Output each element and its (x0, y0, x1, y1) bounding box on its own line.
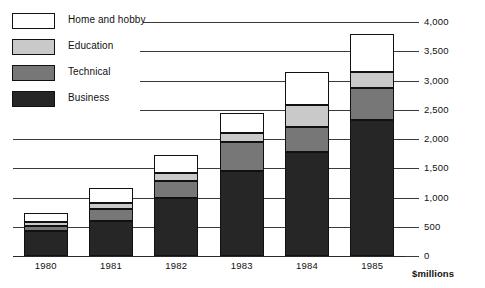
bar-segment-1985-education (350, 72, 394, 88)
y-axis-unit-label: $millions (412, 268, 454, 279)
bar-segment-1985-home (350, 34, 394, 72)
y-axis-tick-1000 (405, 198, 419, 199)
legend-label-technical: Technical (68, 66, 111, 77)
stacked-bar-chart: 05001,0001,5002,0002,5003,0003,5004,000 … (0, 0, 485, 288)
bar-segment-1983-home (220, 113, 264, 133)
bar-segment-1984-home (285, 72, 329, 105)
x-axis-label-1981: 1981 (86, 260, 136, 271)
bar-segment-1982-home (154, 155, 198, 173)
bar-segment-1983-business (220, 171, 264, 256)
legend-swatch-home-and-hobby (12, 13, 55, 29)
y-axis-label-3500: 3,500 (424, 45, 449, 56)
gridline-2000 (13, 139, 405, 140)
y-axis-label-1000: 1,000 (424, 192, 449, 203)
x-axis-label-1980: 1980 (21, 260, 71, 271)
y-axis-label-3000: 3,000 (424, 75, 449, 86)
legend-swatch-technical (12, 65, 55, 81)
gridline-1000 (13, 198, 405, 199)
bar-1981 (89, 188, 133, 256)
y-axis-tick-0 (405, 256, 419, 257)
bar-segment-1984-technical (285, 127, 329, 152)
bar-segment-1985-business (350, 120, 394, 256)
legend-label-home-and-hobby: Home and hobby (68, 14, 146, 25)
bar-1984 (285, 72, 329, 256)
y-axis-tick-1500 (405, 168, 419, 169)
bar-segment-1983-education (220, 133, 264, 142)
legend-swatch-education (12, 39, 55, 55)
bar-1982 (154, 155, 198, 256)
bar-segment-1983-technical (220, 142, 264, 171)
y-axis-tick-500 (405, 227, 419, 228)
bar-segment-1981-technical (89, 209, 133, 221)
bar-segment-1984-business (285, 152, 329, 256)
x-axis-label-1984: 1984 (282, 260, 332, 271)
x-axis-label-1982: 1982 (151, 260, 201, 271)
x-axis-line (13, 256, 405, 257)
y-axis-tick-3000 (405, 81, 419, 82)
y-axis-label-0: 0 (424, 250, 429, 261)
y-axis-label-2000: 2,000 (424, 133, 449, 144)
legend-swatch-business (12, 91, 55, 107)
bar-segment-1982-technical (154, 181, 198, 198)
y-axis-label-2500: 2,500 (424, 104, 449, 115)
bar-segment-1980-technical (24, 226, 68, 232)
y-axis-label-1500: 1,500 (424, 162, 449, 173)
bar-segment-1980-education (24, 222, 68, 226)
bar-1983 (220, 113, 264, 256)
bar-segment-1980-business (24, 231, 68, 256)
y-axis-tick-3500 (405, 51, 419, 52)
bar-segment-1985-technical (350, 88, 394, 120)
x-axis-label-1985: 1985 (347, 260, 397, 271)
y-axis-tick-2500 (405, 110, 419, 111)
bar-segment-1981-home (89, 188, 133, 203)
bar-1985 (350, 34, 394, 256)
gridline-500 (13, 227, 405, 228)
bar-segment-1982-education (154, 173, 198, 181)
y-axis-label-500: 500 (424, 221, 440, 232)
legend-label-education: Education (68, 40, 113, 51)
y-axis-tick-2000 (405, 139, 419, 140)
bar-segment-1984-education (285, 105, 329, 127)
gridline-4000 (143, 22, 405, 23)
bar-segment-1982-business (154, 198, 198, 256)
bar-1980 (24, 213, 68, 256)
y-axis-label-4000: 4,000 (424, 16, 449, 27)
bar-segment-1981-business (89, 221, 133, 256)
y-axis-tick-4000 (405, 22, 419, 23)
bar-segment-1981-education (89, 203, 133, 209)
x-axis-label-1983: 1983 (217, 260, 267, 271)
legend-label-business: Business (68, 92, 109, 103)
gridline-1500 (13, 168, 405, 169)
bar-segment-1980-home (24, 213, 68, 222)
